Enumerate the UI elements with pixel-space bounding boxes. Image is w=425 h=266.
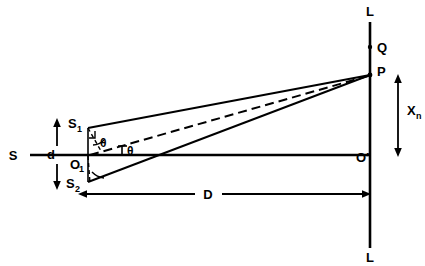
label-slit-s2: S xyxy=(66,176,75,191)
label-screen-bottom-l: L xyxy=(366,250,374,265)
label-slit-s1-subscript: 1 xyxy=(77,124,82,134)
point-p-marker xyxy=(368,73,373,78)
label-slit-s2-subscript: 2 xyxy=(75,184,80,194)
label-slit-separation-d: d xyxy=(47,147,55,162)
label-point-p: P xyxy=(377,64,386,79)
label-screen-top-l: L xyxy=(366,4,374,19)
label-angle-theta-slit: θ xyxy=(100,136,107,150)
dim-xn-arrow-down xyxy=(394,148,402,157)
label-screen-distance-d: D xyxy=(203,187,212,202)
label-slit-s1: S xyxy=(68,116,77,131)
label-source-s: S xyxy=(9,148,18,163)
interference-diagram: S S 1 S 2 O 1 d θ θ L L Q P O′ X n D xyxy=(0,0,425,266)
dim-d-arrow-down xyxy=(53,181,61,190)
label-slit-midpoint-o1-subscript: 1 xyxy=(79,164,84,174)
dim-xn-arrow-up xyxy=(394,74,402,83)
label-fringe-distance-x: X xyxy=(407,103,416,118)
ray-s1-to-p xyxy=(88,75,370,128)
angle-arc-lower xyxy=(92,172,104,178)
point-q-marker xyxy=(368,45,372,49)
dim-d-arrow-up xyxy=(53,118,61,127)
label-fringe-distance-subscript: n xyxy=(416,111,422,121)
diagram-canvas: S S 1 S 2 O 1 d θ θ L L Q P O′ X n D xyxy=(0,0,425,266)
label-angle-theta-axis: θ xyxy=(127,144,134,158)
ray-s2-to-p xyxy=(88,75,370,182)
label-screen-center-o-prime: O′ xyxy=(356,150,369,165)
label-point-q: Q xyxy=(377,40,387,55)
